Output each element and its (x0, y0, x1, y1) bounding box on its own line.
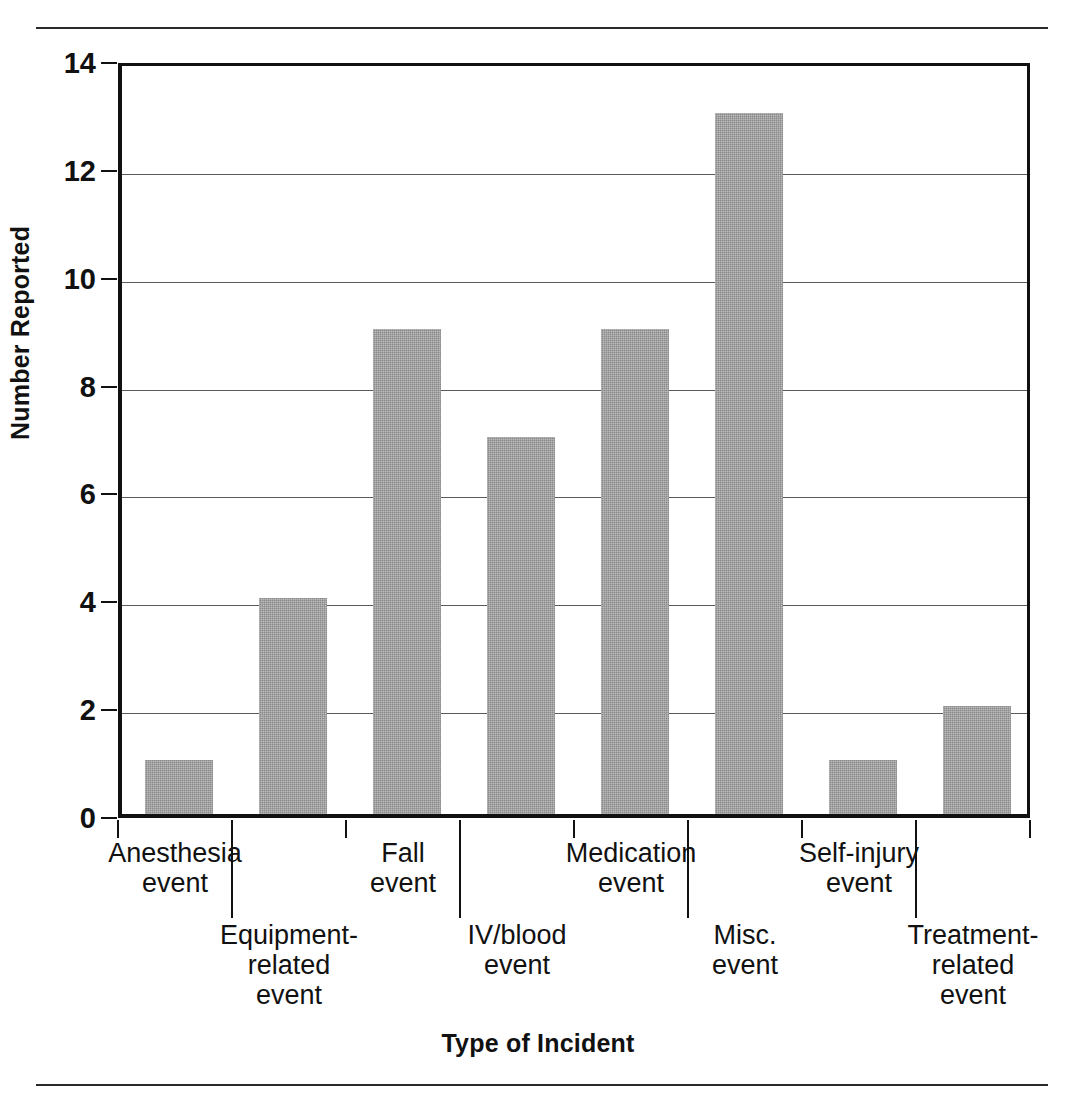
x-tick-label-line: Fall (370, 838, 436, 868)
x-tick-label-line: Medication (566, 838, 697, 868)
x-tick-label-line: event (108, 868, 242, 898)
page-rule-bottom (36, 1084, 1048, 1086)
bar (145, 760, 213, 814)
bar (259, 598, 327, 814)
page-rule-top (36, 27, 1048, 29)
y-tick-mark (101, 493, 117, 495)
plot-area (118, 63, 1030, 818)
y-tick-label: 14 (26, 49, 96, 78)
y-tick-mark (101, 62, 117, 64)
bars-layer (122, 66, 1027, 814)
x-tick-label: Misc.event (712, 920, 778, 980)
y-tick-label: 10 (26, 264, 96, 293)
x-tick-label: Medicationevent (566, 838, 697, 898)
x-tick-label: Anesthesiaevent (108, 838, 242, 898)
x-tick-label-line: Anesthesia (108, 838, 242, 868)
x-tick-mark (1029, 820, 1031, 838)
bar (829, 760, 897, 814)
x-tick-label: Equipment-relatedevent (220, 920, 358, 1011)
x-tick-mark (345, 820, 347, 838)
x-tick-mark (117, 820, 119, 838)
x-tick-label: IV/bloodevent (467, 920, 566, 980)
y-tick-mark (101, 278, 117, 280)
x-tick-label-line: Equipment- (220, 920, 358, 950)
bar (487, 437, 555, 815)
x-tick-label-line: related (907, 950, 1038, 980)
y-tick-mark (101, 709, 117, 711)
bar (943, 706, 1011, 814)
y-tick-label: 0 (26, 804, 96, 833)
x-tick-mark (573, 820, 575, 838)
x-tick-label-line: event (566, 868, 697, 898)
y-tick-label: 4 (26, 588, 96, 617)
bar (715, 113, 783, 814)
y-tick-mark (101, 817, 117, 819)
x-tick-label-line: Treatment- (907, 920, 1038, 950)
bar (601, 329, 669, 814)
y-tick-label: 8 (26, 372, 96, 401)
x-tick-label: Treatment-relatedevent (907, 920, 1038, 1011)
x-tick-label-line: event (220, 980, 358, 1010)
x-tick-label-line: event (712, 950, 778, 980)
x-tick-label-line: IV/blood (467, 920, 566, 950)
x-tick-label-line: Self-injury (799, 838, 919, 868)
y-tick-label: 6 (26, 480, 96, 509)
bar-chart-figure: Number Reported 02468101214 Anesthesiaev… (0, 0, 1076, 1105)
bar (373, 329, 441, 814)
y-tick-mark (101, 601, 117, 603)
x-axis-title: Type of Incident (0, 1029, 1076, 1058)
y-tick-mark (101, 386, 117, 388)
x-tick-label-line: related (220, 950, 358, 980)
x-tick-label: Fallevent (370, 838, 436, 898)
y-tick-label: 2 (26, 696, 96, 725)
x-tick-label-line: event (467, 950, 566, 980)
y-tick-mark (101, 170, 117, 172)
x-category-leader-line (459, 820, 461, 918)
y-tick-label: 12 (26, 156, 96, 185)
x-tick-label-line: event (370, 868, 436, 898)
y-axis-title: Number Reported (6, 226, 35, 440)
x-tick-label-line: event (907, 980, 1038, 1010)
x-tick-label-line: Misc. (712, 920, 778, 950)
x-tick-label-line: event (799, 868, 919, 898)
x-tick-label: Self-injuryevent (799, 838, 919, 898)
x-tick-mark (801, 820, 803, 838)
